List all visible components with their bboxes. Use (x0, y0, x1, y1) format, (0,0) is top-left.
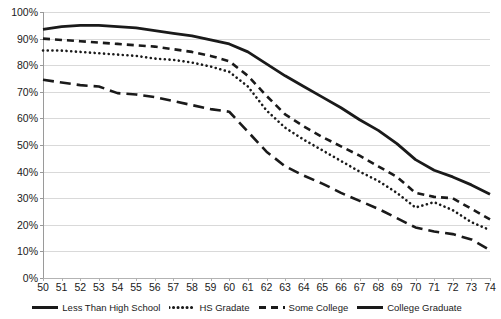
legend-item[interactable]: College Graduate (357, 302, 461, 313)
x-axis-tick (434, 278, 435, 281)
legend-item[interactable]: Less Than High School (32, 302, 160, 313)
x-axis-tick (490, 278, 491, 281)
series-line (43, 39, 490, 220)
x-axis-tick (62, 278, 63, 281)
x-axis-tick (285, 278, 286, 281)
legend-label: Some College (289, 302, 349, 313)
series-line (43, 51, 490, 231)
x-axis-tick (267, 278, 268, 281)
long-dash-swatch (32, 303, 58, 312)
legend-item[interactable]: HS Gradate (169, 302, 249, 313)
dotted-swatch (169, 303, 195, 312)
x-axis-tick (136, 278, 137, 281)
x-axis-tick (211, 278, 212, 281)
x-axis-labels: 5051525354555657585960616263646566676869… (43, 281, 490, 297)
legend-item[interactable]: Some College (259, 302, 349, 313)
chart-legend: Less Than High SchoolHS GradateSome Coll… (0, 298, 494, 316)
x-axis-tick (322, 278, 323, 281)
x-axis-tick (471, 278, 472, 281)
x-axis-tick (192, 278, 193, 281)
x-axis-tick (229, 278, 230, 281)
x-axis-tick (248, 278, 249, 281)
x-axis-tick (304, 278, 305, 281)
x-axis-tick (453, 278, 454, 281)
x-axis-tick (416, 278, 417, 281)
legend-label: Less Than High School (62, 302, 160, 313)
x-axis-tick (341, 278, 342, 281)
x-axis-tick (397, 278, 398, 281)
medium-dash-swatch (259, 303, 285, 312)
series-line (43, 25, 490, 194)
x-axis-tick (378, 278, 379, 281)
x-axis-tick (80, 278, 81, 281)
x-axis-tick (118, 278, 119, 281)
x-axis-tick (99, 278, 100, 281)
legend-label: College Graduate (387, 302, 461, 313)
solid-swatch (357, 303, 383, 312)
legend-label: HS Gradate (199, 302, 249, 313)
x-axis-tick (173, 278, 174, 281)
x-axis-tick (155, 278, 156, 281)
x-axis-tick (360, 278, 361, 281)
x-axis-tick (43, 278, 44, 281)
x-axis-tick-label: 74 (478, 281, 501, 293)
